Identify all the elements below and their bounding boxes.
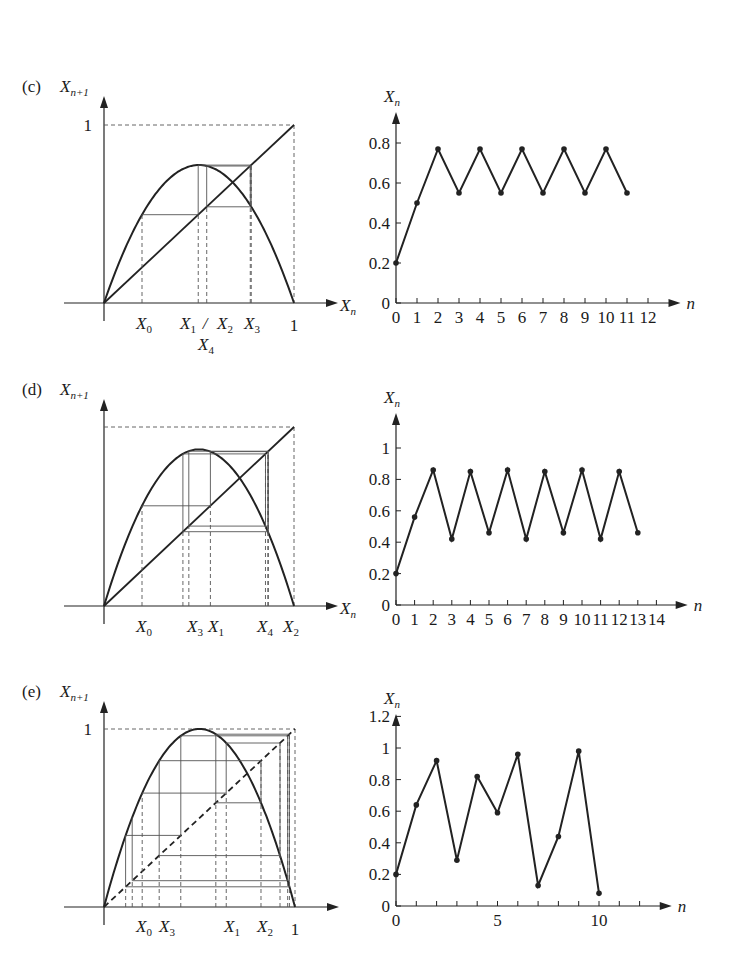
x-marker-label: X3 [186, 617, 203, 638]
cobweb-panel-c: (c)Xn+1Xn11 [22, 77, 356, 335]
arrow-head-icon [100, 399, 108, 411]
data-point [616, 469, 622, 475]
y-axis-label: Xn+1 [59, 380, 89, 401]
y-tick-label: 1 [382, 739, 391, 758]
y-tick-label: 0 [382, 294, 391, 313]
slash-separator: / [202, 314, 210, 333]
logistic-curve [104, 165, 294, 303]
data-point [596, 891, 602, 897]
y-axis-label: Xn [383, 388, 400, 409]
data-point [495, 810, 501, 816]
arrow-head-icon [100, 96, 108, 108]
x-tick-label: 12 [640, 308, 657, 327]
x-axis-label: n [687, 294, 696, 313]
data-point [523, 536, 529, 542]
x-tick-label: 6 [503, 610, 512, 629]
x-marker-label: X2 [282, 617, 299, 638]
time-series-panel-1: Xnn00.20.40.60.80123456789101112 [369, 87, 695, 327]
data-point [393, 872, 399, 878]
data-point [561, 530, 567, 536]
x-marker-label: X3 [243, 314, 260, 335]
x-marker-label: X3 [158, 917, 175, 938]
y-tick-label: 1 [382, 439, 391, 458]
data-point [414, 200, 420, 206]
x-marker-label: X4 [256, 617, 273, 638]
y-tick-label: 0.6 [369, 502, 390, 521]
data-point [486, 530, 492, 536]
data-point [582, 190, 588, 196]
arrow-head-icon [327, 903, 339, 911]
x-tick-label: 0 [392, 911, 401, 930]
y-tick-label: 0.4 [369, 834, 391, 853]
data-point [561, 146, 567, 152]
y-tick-label: 1.2 [369, 707, 390, 726]
y-tick-label: 0.2 [369, 565, 390, 584]
data-point [542, 469, 548, 475]
y-tick-label: 0.8 [369, 470, 390, 489]
x-axis-label: Xn [339, 296, 356, 317]
arrow-head-icon [676, 601, 688, 609]
x-tick-label: 7 [522, 610, 531, 629]
y-tick-label: 0.8 [369, 134, 390, 153]
x-tick-label: 10 [574, 610, 591, 629]
x-marker-label: X0 [135, 314, 152, 335]
x-tick-label: 11 [592, 610, 608, 629]
arrow-head-icon [392, 413, 400, 425]
data-point [449, 536, 455, 542]
x-tick-label: 4 [466, 610, 475, 629]
x-marker-label: X1 [223, 917, 240, 938]
x-axis-label: Xn [339, 599, 356, 620]
x-marker-label: X2 [256, 917, 273, 938]
y-tick-label: 0.4 [369, 533, 391, 552]
x-tick-label: 5 [493, 911, 502, 930]
series-line [396, 149, 627, 263]
x-axis-label: n [678, 897, 687, 916]
x-tick-label: 14 [648, 610, 666, 629]
x-tick-label: 2 [434, 308, 443, 327]
x-marker-label: X0 [135, 617, 152, 638]
y-tick-label: 0 [382, 897, 391, 916]
x-tick-label: 4 [476, 308, 485, 327]
data-point [435, 146, 441, 152]
panel-tag: (d) [22, 380, 42, 399]
data-point [603, 146, 609, 152]
data-point [430, 467, 436, 473]
data-point [454, 857, 460, 863]
x-tick-label: 0 [392, 610, 401, 629]
data-point [456, 190, 462, 196]
y-tick-label: 0.6 [369, 174, 390, 193]
x-tick-label: 1 [291, 920, 300, 939]
arrow-head-icon [100, 701, 108, 713]
y-axis-label: Xn [383, 87, 400, 108]
data-point [434, 758, 440, 764]
data-point [414, 802, 420, 808]
data-point [468, 469, 474, 475]
data-point [598, 536, 604, 542]
x-tick-label: 2 [429, 610, 438, 629]
data-point [393, 571, 399, 577]
y-tick-label: 0.2 [369, 865, 390, 884]
x-tick-label: 8 [541, 610, 550, 629]
data-point [576, 748, 582, 754]
x-tick-label: 5 [497, 308, 506, 327]
x-marker-label: X0 [135, 917, 152, 938]
x-tick-label: 10 [598, 308, 615, 327]
data-point [624, 190, 630, 196]
x-tick-label: 3 [455, 308, 464, 327]
x-tick-label: 1 [413, 308, 422, 327]
x-axis-label: n [694, 596, 703, 615]
y-tick-label: 0.2 [369, 254, 390, 273]
data-point [540, 190, 546, 196]
data-point [393, 260, 399, 266]
y-tick-label: 0.4 [369, 214, 391, 233]
arrow-head-icon [326, 299, 338, 307]
logistic-map-figure: (c)Xn+1Xn11(d)Xn+1Xn(e)Xn+111X0X1X2X3X0X… [0, 0, 734, 953]
series-line [396, 470, 638, 574]
cobweb-panel-d: (d)Xn+1Xn [22, 380, 356, 624]
arrow-head-icon [392, 112, 400, 124]
panel-tag: (e) [22, 682, 41, 701]
y-axis-label: Xn+1 [59, 77, 89, 98]
x-tick-label: 9 [581, 308, 590, 327]
data-point [474, 774, 480, 780]
data-point [579, 467, 585, 473]
